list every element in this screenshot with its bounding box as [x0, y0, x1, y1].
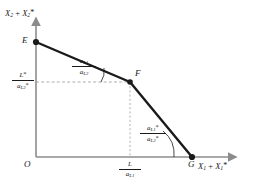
slope-fg-numerator: aL1*: [140, 123, 166, 134]
ppf-diagram: X2 + X2* X1 + X1* O E F G L* aL2* L aL1 …: [0, 0, 254, 187]
point-label-g: G: [188, 160, 195, 169]
slope-label-ef: aL1 aL2: [72, 56, 96, 77]
origin-label: O: [24, 160, 31, 169]
frontier-segment-fg: [130, 82, 192, 157]
point-f-marker: [127, 79, 133, 85]
x-axis-label: X1 + X1*: [198, 162, 227, 171]
point-label-e: E: [22, 36, 28, 45]
x-tick-denominator: aL1: [119, 170, 141, 178]
y-axis-label: X2 + X2*: [5, 9, 34, 18]
x-tick-label: L aL1: [119, 161, 141, 178]
point-label-f: F: [135, 69, 141, 78]
plot-canvas: [0, 0, 254, 187]
point-e-marker: [33, 39, 39, 45]
y-tick-denominator: aL2*: [12, 81, 34, 91]
slope-fg-denominator: aL2*: [140, 134, 166, 144]
slope-ef-numerator: aL1: [72, 56, 96, 67]
x-tick-numerator: L: [119, 161, 141, 170]
slope-label-fg: aL1* aL2*: [140, 123, 166, 144]
y-tick-label: L* aL2*: [12, 70, 34, 91]
y-tick-numerator: L*: [12, 70, 34, 81]
slope-ef-denominator: aL2: [72, 67, 96, 77]
